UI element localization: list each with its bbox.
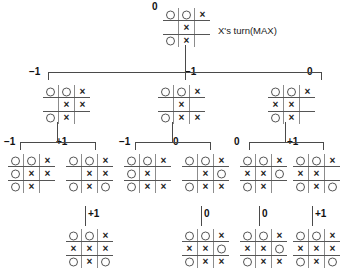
cell-r1-c1: × <box>309 167 325 180</box>
edge-level2-bus-stem <box>185 57 186 72</box>
cell-r2-c1: × <box>24 180 40 193</box>
node-value-l4-1: 0 <box>204 209 210 219</box>
o-mark-icon <box>312 156 321 165</box>
cell-r1-c0: × <box>293 242 309 255</box>
cell-r1-c0: × <box>293 167 309 180</box>
cell-r0-c1 <box>284 85 300 98</box>
cell-r2-c1: × <box>256 255 272 268</box>
x-mark-icon: × <box>87 242 93 253</box>
cell-r1-c1: × <box>256 167 272 180</box>
x-mark-icon: × <box>314 167 320 178</box>
cell-r1-c2 <box>272 242 288 255</box>
cell-r1-c0 <box>124 167 140 180</box>
x-mark-icon: × <box>29 181 35 192</box>
x-mark-icon: × <box>314 256 320 267</box>
o-mark-icon <box>217 169 226 178</box>
node-value-l3-2: −1 <box>119 137 130 147</box>
cell-r0-c0 <box>293 229 309 242</box>
cell-r1-c2 <box>156 167 172 180</box>
o-mark-icon <box>62 87 71 96</box>
o-mark-icon <box>69 156 78 165</box>
cell-r2-c0 <box>268 111 284 124</box>
x-mark-icon: × <box>289 98 295 109</box>
x-mark-icon: × <box>80 85 86 96</box>
cell-r2-c2 <box>40 180 56 193</box>
x-mark-icon: × <box>261 256 267 267</box>
cell-r1-c1: × <box>59 98 75 111</box>
o-mark-icon <box>243 156 252 165</box>
cell-r1-c0: × <box>240 242 256 255</box>
x-mark-icon: × <box>200 8 206 19</box>
edge-to-l3-node2 <box>135 142 136 150</box>
o-mark-icon <box>161 87 170 96</box>
cell-r1-c0 <box>43 98 59 111</box>
cell-r0-c1 <box>179 8 195 21</box>
o-mark-icon <box>296 183 305 192</box>
cell-r1-c0 <box>158 98 174 111</box>
x-mark-icon: × <box>103 242 109 253</box>
o-mark-icon <box>185 231 194 240</box>
cell-r1-c2 <box>300 98 316 111</box>
cell-r1-c0 <box>163 21 179 34</box>
cell-r0-c1 <box>309 154 325 167</box>
x-mark-icon: × <box>103 229 109 240</box>
edge-l3-groupA-stem <box>57 135 58 142</box>
o-mark-icon <box>296 156 305 165</box>
cell-r0-c0 <box>163 8 179 21</box>
cell-r2-c2: × <box>156 180 172 193</box>
cell-r0-c2: × <box>325 229 341 242</box>
o-mark-icon <box>243 258 252 267</box>
cell-r2-c0 <box>66 180 82 193</box>
cell-r2-c2: × <box>214 255 230 268</box>
cell-r0-c1 <box>256 154 272 167</box>
x-mark-icon: × <box>145 181 151 192</box>
cell-r2-c0 <box>8 180 24 193</box>
cell-r2-c2: × <box>190 111 206 124</box>
o-mark-icon <box>166 10 175 19</box>
o-mark-icon <box>243 183 252 192</box>
x-mark-icon: × <box>203 256 209 267</box>
cell-r1-c2 <box>214 167 230 180</box>
ttt-board-l4-3: ××××× <box>293 229 338 266</box>
cell-r1-c2 <box>325 167 341 180</box>
o-mark-icon <box>243 231 252 240</box>
cell-r2-c0 <box>240 255 256 268</box>
cell-r0-c2: × <box>214 154 230 167</box>
cell-r2-c1: × <box>82 255 98 268</box>
node-value-l4-0: +1 <box>88 209 99 219</box>
ttt-board-l3-0: ×××× <box>8 154 53 191</box>
cell-r0-c2: × <box>272 154 288 167</box>
x-mark-icon: × <box>64 98 70 109</box>
node-value-l4-2: 0 <box>262 209 268 219</box>
cell-r0-c1 <box>309 229 325 242</box>
edge-to-l2-node0 <box>48 72 49 80</box>
x-mark-icon: × <box>203 181 209 192</box>
o-mark-icon <box>69 183 78 192</box>
cell-r1-c1: × <box>198 167 214 180</box>
x-mark-icon: × <box>45 154 51 165</box>
node-value-l3-4: 0 <box>234 137 240 147</box>
cell-r0-c0 <box>8 154 24 167</box>
cell-r2-c0 <box>293 180 309 193</box>
x-mark-icon: × <box>195 85 201 96</box>
o-mark-icon <box>27 156 36 165</box>
o-mark-icon <box>259 156 268 165</box>
node-value-root-0: 0 <box>152 2 158 12</box>
cell-r1-c2: × <box>98 167 114 180</box>
x-mark-icon: × <box>305 85 311 96</box>
o-mark-icon <box>46 114 55 123</box>
cell-r0-c1 <box>198 154 214 167</box>
x-mark-icon: × <box>219 229 225 240</box>
x-mark-icon: × <box>103 167 109 178</box>
o-mark-icon <box>201 156 210 165</box>
edge-l3-groupC-bus <box>249 142 323 143</box>
cell-r2-c2: × <box>272 255 288 268</box>
cell-r1-c1: × <box>24 167 40 180</box>
ttt-board-l4-2: ××××× <box>240 229 285 266</box>
cell-r0-c0 <box>240 154 256 167</box>
o-mark-icon <box>69 258 78 267</box>
cell-r2-c2 <box>300 111 316 124</box>
x-mark-icon: × <box>245 167 251 178</box>
node-value-l4-3: +1 <box>315 209 326 219</box>
cell-r2-c1: × <box>309 180 325 193</box>
